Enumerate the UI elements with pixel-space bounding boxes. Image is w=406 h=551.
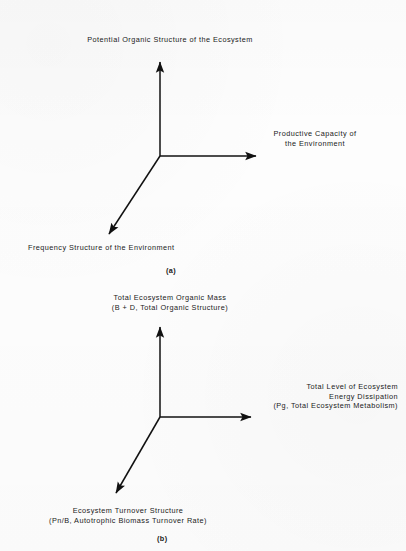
panel-a-horizontal-axis-label-line1: Productive Capacity of [240,129,390,139]
panel-b-diagonal-axis-label-line2: (Pn/B, Autotrophic Biomass Turnover Rate… [16,516,240,526]
panel-b-horizontal-axis-label-line2: Energy Dissipation [218,392,398,402]
panel-a-horizontal-axis-label-line2: the Environment [240,139,390,149]
panel-a-vertical-axis-label: Potential Organic Structure of the Ecosy… [55,35,285,45]
panel-b-diagonal-axis-label-line1: Ecosystem Turnover Structure [16,506,240,516]
panel-a-caption: (a) [166,266,176,275]
panel-b-horizontal-axis-label-line1: Total Level of Ecosystem [218,382,398,392]
panel-a-axes [0,0,406,551]
panel-b-diagonal-axis [116,417,160,493]
panel-b-vertical-axis-label-line1: Total Ecosystem Organic Mass [80,293,260,303]
figure-page: Potential Organic Structure of the Ecosy… [0,0,406,551]
panel-b-vertical-axis-label-line2: (B + D, Total Organic Structure) [80,303,260,313]
panel-b-horizontal-axis-label-line3: (Pg, Total Ecosystem Metabolism) [218,401,398,411]
panel-a-diagonal-axis [109,156,160,234]
panel-a-diagonal-axis-label: Frequency Structure of the Environment [28,243,174,253]
panel-b-caption: (b) [157,534,168,543]
